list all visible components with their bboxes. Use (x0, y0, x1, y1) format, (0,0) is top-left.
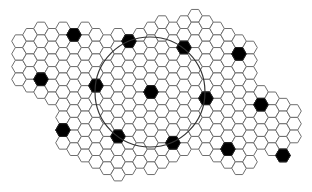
hex-cell-filled (34, 73, 49, 86)
hex-cell-filled (276, 149, 291, 162)
hex-cell-filled (166, 136, 181, 149)
hex-cell (287, 105, 302, 118)
hex-cell-filled (56, 124, 71, 137)
hex-cell-filled (67, 29, 82, 42)
hex-cell (287, 130, 302, 143)
hex-cells (12, 9, 302, 180)
hex-cell (243, 67, 258, 80)
hex-cell-filled (254, 98, 269, 111)
hex-cell-filled (232, 48, 247, 61)
hex-cell-filled (199, 92, 214, 105)
hex-grid-diagram (0, 0, 312, 192)
hex-cell-filled (177, 41, 192, 54)
hex-cell (243, 156, 258, 169)
hex-cell-filled (221, 143, 236, 156)
hex-cell-filled (144, 86, 159, 99)
hex-cell (287, 117, 302, 130)
